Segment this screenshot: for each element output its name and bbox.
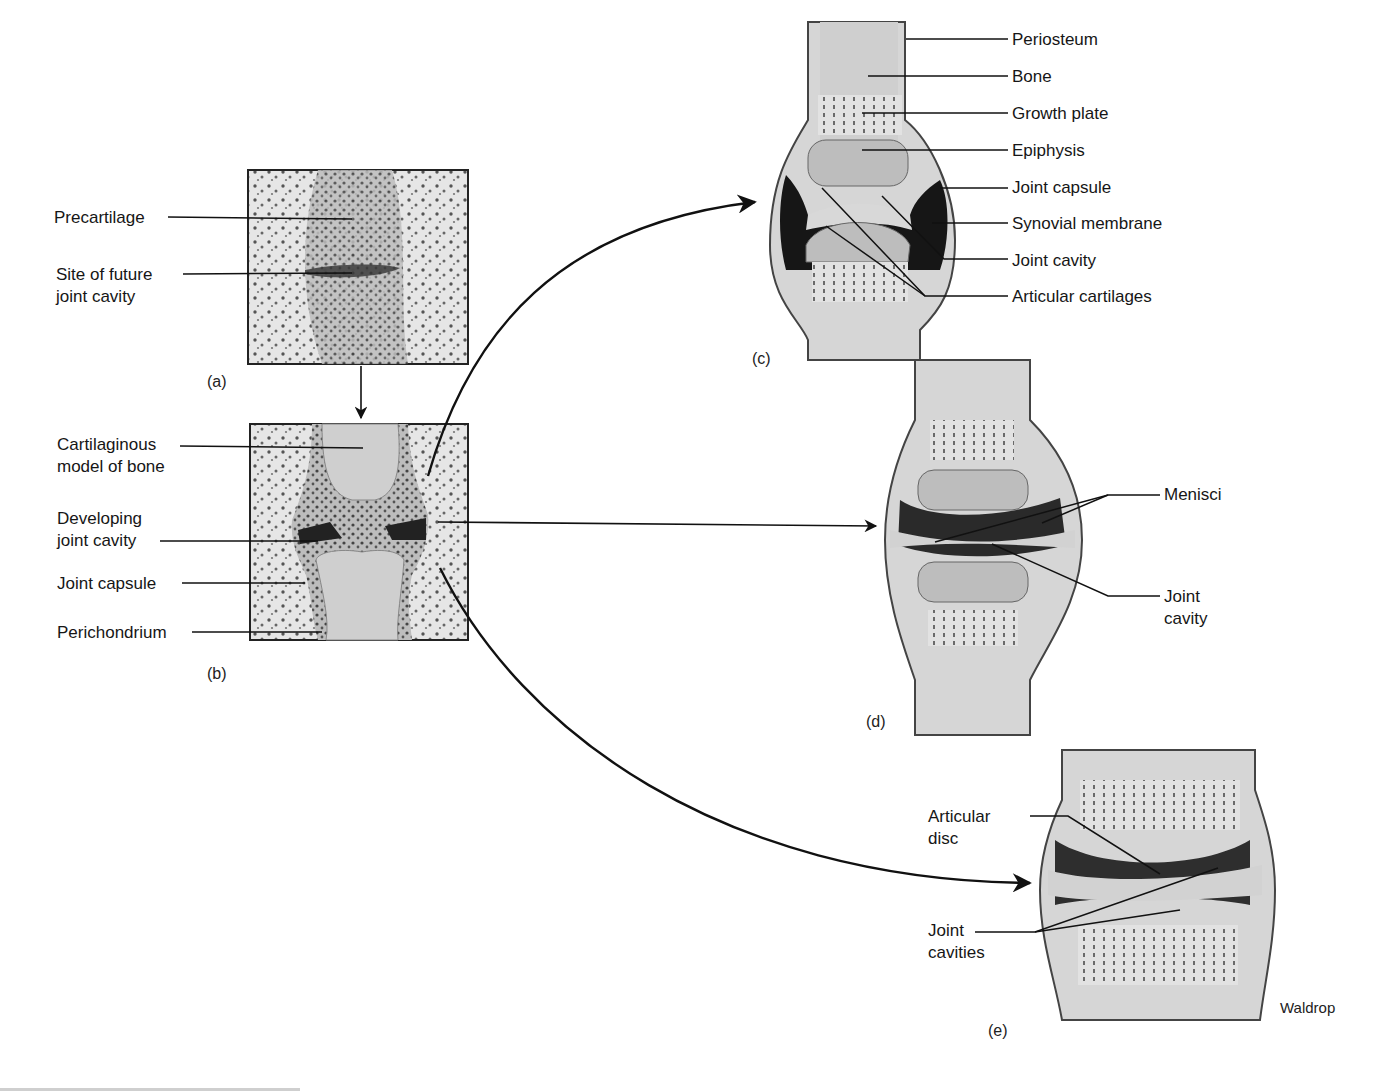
label-joint-capsule-b: Joint capsule <box>57 573 156 595</box>
arrow-b-to-d <box>438 522 876 526</box>
label-precartilage: Precartilage <box>54 207 145 229</box>
panel-b-developing-joint <box>250 424 468 640</box>
arrow-b-to-c <box>428 202 755 476</box>
label-articular-cartilages: Articular cartilages <box>1012 286 1152 308</box>
artist-credit: Waldrop <box>1280 999 1335 1016</box>
panel-tag-a: (a) <box>207 373 227 391</box>
label-site-of-future-joint-cavity: Site of future joint cavity <box>56 264 152 308</box>
label-bone: Bone <box>1012 66 1052 88</box>
label-epiphysis: Epiphysis <box>1012 140 1085 162</box>
label-cartilaginous-model-of-bone: Cartilaginous model of bone <box>57 434 165 478</box>
panel-a-precartilage <box>248 170 468 364</box>
label-synovial-membrane: Synovial membrane <box>1012 213 1162 235</box>
panel-tag-c: (c) <box>752 350 771 368</box>
joint-development-diagram <box>0 0 1396 1091</box>
panel-tag-d: (d) <box>866 713 886 731</box>
label-growth-plate: Growth plate <box>1012 103 1108 125</box>
panel-e-joint-with-disc <box>1040 750 1275 1020</box>
label-joint-cavity-c: Joint cavity <box>1012 250 1096 272</box>
label-joint-cavity-d: Joint cavity <box>1164 586 1207 630</box>
label-periosteum: Periosteum <box>1012 29 1098 51</box>
panel-d-joint-with-menisci <box>885 360 1082 735</box>
panel-tag-b: (b) <box>207 665 227 683</box>
label-joint-cavities: Joint cavities <box>928 920 985 964</box>
label-menisci: Menisci <box>1164 484 1222 506</box>
panel-tag-e: (e) <box>988 1022 1008 1040</box>
label-articular-disc: Articular disc <box>928 806 990 850</box>
panel-c-synovial-joint <box>770 22 955 360</box>
label-joint-capsule-c: Joint capsule <box>1012 177 1111 199</box>
label-developing-joint-cavity: Developing joint cavity <box>57 508 142 552</box>
label-perichondrium: Perichondrium <box>57 622 167 644</box>
